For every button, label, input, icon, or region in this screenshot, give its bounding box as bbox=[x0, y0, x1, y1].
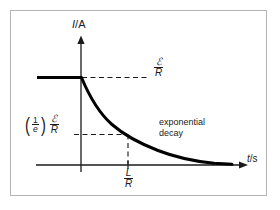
plot-canvas bbox=[0, 0, 280, 210]
x-axis-label: t/s bbox=[247, 154, 258, 165]
y-axis bbox=[77, 36, 84, 173]
y-axis-label: I/A bbox=[72, 19, 85, 31]
fraction-denominator: R bbox=[154, 67, 163, 78]
annotation-line-1: exponential bbox=[159, 117, 205, 128]
label-one-over-e-current: ( 1 e ) ℰ R bbox=[24, 114, 59, 135]
figure-container: I/A t/s ℰ R ( 1 e ) ℰ R L R exponential … bbox=[0, 0, 280, 210]
annotation-exponential-decay: exponential decay bbox=[159, 117, 205, 139]
y-axis-unit: A bbox=[78, 18, 85, 30]
fraction-denominator: R bbox=[124, 178, 133, 189]
fraction-time-constant: L R bbox=[124, 168, 133, 189]
paren-close: ) bbox=[41, 115, 46, 134]
fraction-denominator: e bbox=[32, 124, 39, 134]
label-time-constant: L R bbox=[124, 168, 133, 189]
fraction-numerator: ℰ bbox=[154, 57, 163, 67]
annotation-line-2: decay bbox=[159, 128, 205, 139]
fraction-numerator: ℰ bbox=[50, 114, 59, 124]
fraction-initial-current-secondary: ℰ R bbox=[50, 114, 59, 135]
curve-exponential-decay bbox=[82, 78, 233, 165]
fraction-numerator: 1 bbox=[32, 116, 39, 125]
fraction-one-over-e: 1 e bbox=[32, 116, 39, 134]
fraction-denominator: R bbox=[50, 124, 59, 135]
paren-open: ( bbox=[25, 115, 30, 134]
x-axis-unit: s bbox=[253, 153, 258, 164]
fraction-initial-current: ℰ R bbox=[154, 57, 163, 78]
label-initial-current: ℰ R bbox=[154, 57, 163, 78]
fraction-numerator: L bbox=[124, 168, 133, 178]
